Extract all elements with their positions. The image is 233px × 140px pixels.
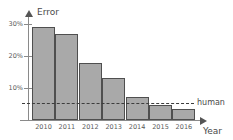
bar-2014 xyxy=(126,97,149,120)
human-baseline-label: human xyxy=(197,98,225,107)
bar-2011 xyxy=(55,34,78,120)
x-axis-title: Year xyxy=(203,126,222,136)
bar-2013 xyxy=(102,78,125,120)
bar-2010 xyxy=(32,27,55,120)
human-baseline-line xyxy=(22,103,194,104)
bar-2012 xyxy=(79,63,102,120)
bar-series xyxy=(0,0,233,140)
error-rate-bar-chart: 10%20%30% human 201020112012201320142015… xyxy=(0,0,233,140)
plot-area: 10%20%30% human 201020112012201320142015… xyxy=(0,0,233,140)
bar-2015 xyxy=(149,105,172,120)
y-axis-title: Error xyxy=(37,7,59,17)
x-axis-tick-label-2016: 2016 xyxy=(170,123,197,131)
bar-2016 xyxy=(172,109,195,120)
